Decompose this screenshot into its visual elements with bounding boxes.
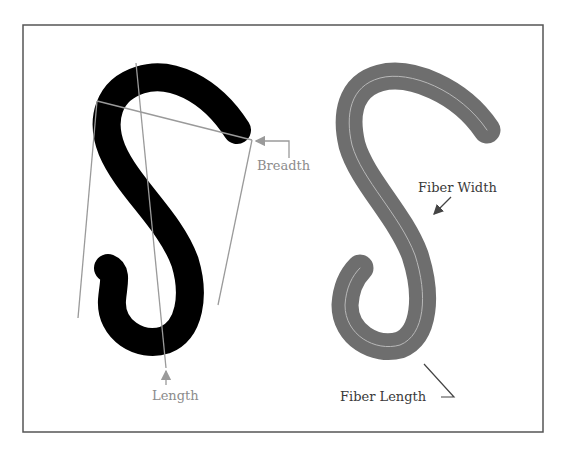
- length-label: Length: [152, 389, 199, 402]
- fiber-width-arrow: [434, 197, 451, 214]
- fiber-measurement-diagram: Breadth Length Fiber Width Fiber Length: [0, 0, 567, 454]
- diagram-canvas: [0, 0, 567, 454]
- figure-frame: [23, 25, 543, 432]
- fiber-length-leader: [424, 364, 454, 397]
- fiber-length-label: Fiber Length: [340, 390, 426, 403]
- fiber-width-label: Fiber Width: [418, 181, 497, 194]
- breadth-label: Breadth: [257, 159, 310, 172]
- breadth-arrow: [256, 141, 289, 158]
- black-s-fiber: [107, 77, 237, 342]
- grey-s-fiber: [345, 76, 487, 346]
